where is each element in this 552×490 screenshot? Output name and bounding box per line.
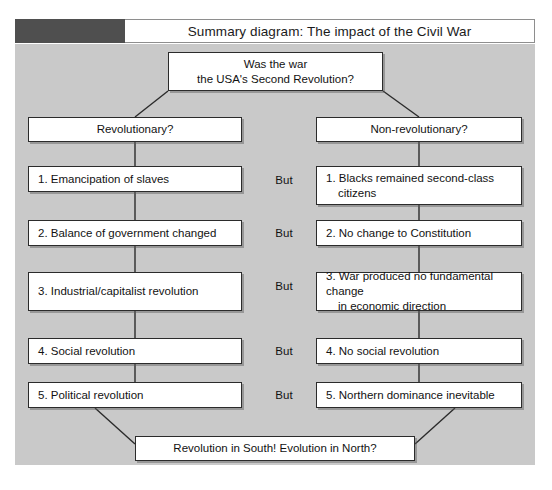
title-plate: Summary diagram: The impact of the Civil… (125, 19, 535, 43)
diagram-panel: Was the war the USA's Second Revolution?… (15, 44, 535, 465)
but-label-4: But (263, 345, 305, 357)
column-header-revolutionary: Revolutionary? (28, 117, 242, 142)
right-item-3-text: 3. War produced no fundamental change in… (326, 269, 521, 314)
page-title: Summary diagram: The impact of the Civil… (188, 24, 471, 39)
left-item-3-text: 3. Industrial/capitalist revolution (38, 284, 198, 299)
but-label-3: But (263, 280, 305, 292)
conclusion-text: Revolution in South! Evolution in North? (173, 441, 376, 456)
right-item-1-text: 1. Blacks remained second-class citizens (326, 171, 494, 201)
summary-diagram-page: Summary diagram: The impact of the Civil… (0, 0, 552, 490)
connector-left-5-to-conclusion (95, 408, 135, 444)
question-box: Was the war the USA's Second Revolution? (168, 52, 383, 91)
left-item-3: 3. Industrial/capitalist revolution (28, 272, 242, 311)
right-item-1: 1. Blacks remained second-class citizens (316, 166, 522, 205)
left-item-5-text: 5. Political revolution (38, 388, 143, 403)
left-item-1: 1. Emancipation of slaves (28, 166, 242, 192)
right-item-3-line-1: 3. War produced no fundamental change (326, 270, 493, 297)
column-header-revolutionary-label: Revolutionary? (97, 122, 174, 137)
question-text: Was the war the USA's Second Revolution? (197, 57, 354, 87)
conclusion-box: Revolution in South! Evolution in North? (135, 436, 415, 461)
right-item-4-text: 4. No social revolution (326, 344, 439, 359)
right-item-4: 4. No social revolution (316, 338, 522, 364)
right-item-5-text: 5. Northern dominance inevitable (326, 388, 495, 403)
right-item-1-line-1: 1. Blacks remained second-class (326, 172, 494, 184)
left-item-5: 5. Political revolution (28, 382, 242, 408)
left-item-2-text: 2. Balance of government changed (38, 226, 216, 241)
left-item-1-text: 1. Emancipation of slaves (38, 172, 169, 187)
right-item-1-line-2: citizens (326, 186, 494, 201)
right-item-5: 5. Northern dominance inevitable (316, 382, 522, 408)
title-bar: Summary diagram: The impact of the Civil… (15, 19, 535, 43)
title-color-swatch (15, 19, 125, 43)
right-item-3: 3. War produced no fundamental change in… (316, 272, 522, 311)
right-item-3-line-2: in economic direction (326, 299, 521, 314)
connector-question-to-left (135, 91, 168, 117)
but-label-2: But (263, 227, 305, 239)
but-label-5: But (263, 389, 305, 401)
column-header-non-revolutionary-label: Non-revolutionary? (370, 122, 467, 137)
right-item-2-text: 2. No change to Constitution (326, 226, 471, 241)
connector-right-5-to-conclusion (415, 408, 455, 444)
left-item-2: 2. Balance of government changed (28, 220, 242, 246)
column-header-non-revolutionary: Non-revolutionary? (316, 117, 522, 142)
right-item-2: 2. No change to Constitution (316, 220, 522, 246)
left-item-4-text: 4. Social revolution (38, 344, 135, 359)
connector-question-to-right (383, 91, 419, 117)
left-item-4: 4. Social revolution (28, 338, 242, 364)
but-label-1: But (263, 174, 305, 186)
question-line-1: Was the war (244, 58, 307, 70)
question-line-2: the USA's Second Revolution? (197, 73, 354, 85)
